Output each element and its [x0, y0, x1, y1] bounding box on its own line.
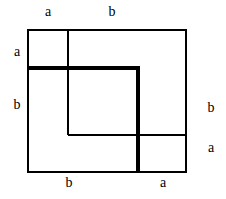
label-left-b: b: [9, 98, 25, 112]
label-bottom-b: b: [61, 176, 77, 190]
label-left-a: a: [9, 45, 25, 59]
label-top-b: b: [104, 5, 120, 19]
label-right-b: b: [203, 101, 219, 115]
diagram-canvas: a b a b b a b a: [0, 0, 226, 199]
outer-square: [28, 30, 186, 172]
label-right-a: a: [203, 141, 219, 155]
diagram-svg: [0, 0, 226, 199]
thick-step-polyline: [28, 68, 138, 172]
label-bottom-a: a: [155, 176, 171, 190]
label-top-a: a: [40, 5, 56, 19]
